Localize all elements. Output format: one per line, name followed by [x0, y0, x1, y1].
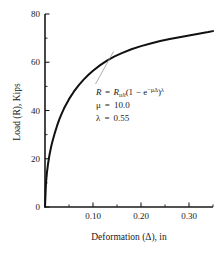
plot-area-background — [45, 14, 213, 207]
equation-minus: − — [136, 87, 141, 97]
y-tick-label: 0 — [36, 202, 41, 212]
figure-container: 020406080 0.100.200.30 R=Rult(1−e−μΔ)λ μ… — [0, 0, 221, 257]
y-axis-title: Load (R), Kips — [12, 83, 23, 141]
mu-value: 10.0 — [114, 100, 130, 110]
x-tick-label: 0.20 — [133, 211, 149, 221]
x-tick-label: 0.10 — [85, 211, 101, 221]
x-axis-title: Deformation (Δ), in — [91, 232, 167, 243]
equation-lambda-exponent: λ — [161, 86, 164, 93]
mu-equals: = — [105, 100, 110, 110]
y-axis-tick-labels: 020406080 — [31, 9, 41, 212]
load-deformation-chart: 020406080 0.100.200.30 R=Rult(1−e−μΔ)λ μ… — [0, 0, 221, 257]
equation-equals: = — [105, 87, 110, 97]
mu-symbol: μ — [96, 100, 101, 110]
y-tick-label: 40 — [31, 106, 41, 116]
lambda-value: 0.55 — [113, 113, 129, 123]
x-tick-label: 0.30 — [181, 211, 197, 221]
y-tick-label: 20 — [31, 154, 41, 164]
equation-r-symbol: R — [95, 87, 102, 97]
lambda-symbol: λ — [96, 113, 101, 123]
x-axis-tick-labels: 0.100.200.30 — [85, 211, 197, 221]
lambda-equals: = — [104, 113, 109, 123]
y-tick-label: 80 — [31, 9, 41, 19]
equation-open-paren: (1 — [126, 87, 134, 97]
y-tick-label: 60 — [31, 57, 41, 67]
equation-e-exponent: −μΔ — [147, 86, 158, 93]
